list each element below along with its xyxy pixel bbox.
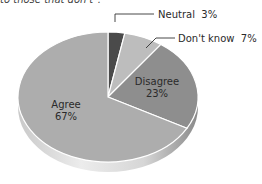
pie-chart: Neutral 3% Don't know 7% Disagree 23% Ag…: [0, 0, 262, 184]
label-disagree-name: Disagree: [135, 76, 179, 87]
leader-line-neutral: [115, 14, 154, 22]
label-neutral: Neutral 3%: [158, 9, 217, 20]
label-disagree-value: 23%: [146, 88, 168, 99]
label-agree-name: Agree: [51, 99, 80, 110]
label-agree-value: 67%: [55, 111, 77, 122]
label-dont-know: Don't know 7%: [178, 33, 257, 44]
